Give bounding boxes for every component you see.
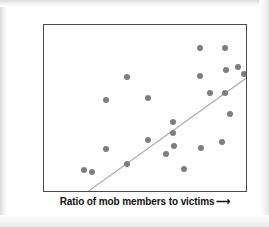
page-edge-bottom — [0, 215, 269, 227]
page-edge-top — [0, 0, 269, 7]
data-point — [163, 151, 169, 157]
data-point — [124, 74, 130, 80]
data-point — [171, 143, 177, 149]
data-point — [222, 90, 228, 96]
trend-line — [44, 25, 246, 191]
data-point — [198, 145, 204, 151]
data-point — [219, 139, 225, 145]
data-point — [170, 119, 176, 125]
plot-canvas — [44, 25, 246, 191]
data-point — [235, 64, 241, 70]
data-point — [103, 146, 109, 152]
scatter-plot-frame — [43, 24, 247, 192]
data-point — [124, 161, 130, 167]
page-edge-left — [0, 0, 7, 227]
data-point — [197, 73, 203, 79]
data-point — [103, 97, 109, 103]
data-point — [145, 137, 151, 143]
data-point — [170, 130, 176, 136]
x-axis-label: Ratio of mob members to victims⟶ — [43, 196, 247, 207]
data-point — [222, 45, 228, 51]
data-point — [207, 90, 213, 96]
data-point — [197, 45, 203, 51]
data-point — [223, 67, 229, 73]
data-point — [145, 95, 151, 101]
figure-page: Ratio of mob members to victims⟶ Level o… — [0, 0, 269, 227]
data-point — [81, 167, 87, 173]
data-point — [89, 169, 95, 175]
data-point — [241, 71, 246, 77]
page-edge-right — [259, 0, 269, 227]
data-point — [181, 166, 187, 172]
data-point — [227, 111, 233, 117]
x-axis-arrow-icon: ⟶ — [214, 196, 230, 207]
x-axis-label-text: Ratio of mob members to victims — [60, 196, 215, 207]
